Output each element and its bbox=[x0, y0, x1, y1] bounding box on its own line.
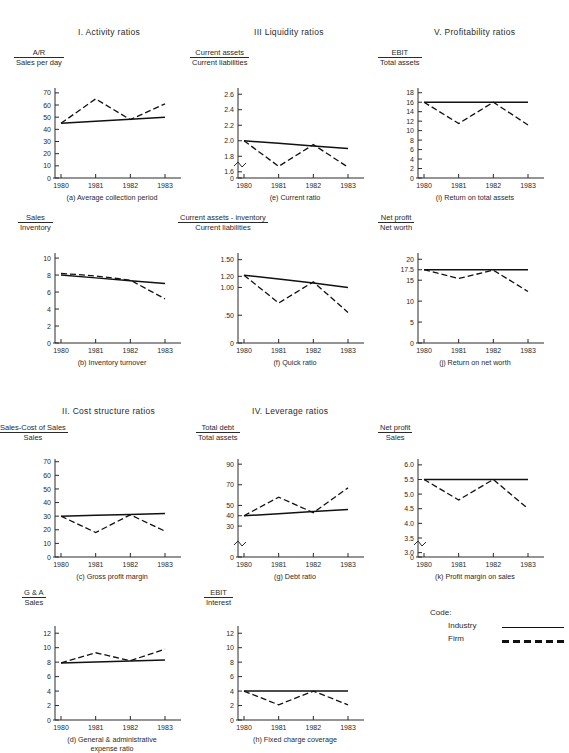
y-tick-label: 10 bbox=[226, 644, 234, 651]
y-tick-label: 2.0 bbox=[224, 137, 234, 144]
x-tick-label: 1983 bbox=[157, 182, 173, 189]
y-tick-label: 2 bbox=[47, 323, 51, 330]
y-tick-label: 8 bbox=[47, 272, 51, 279]
y-axis-numerator-d: G & A bbox=[22, 588, 46, 598]
caption-line-1: (e) Current ratio bbox=[212, 194, 378, 203]
x-tick-label: 1980 bbox=[53, 561, 69, 568]
plot-h: 0246810121980198119821983 bbox=[212, 618, 378, 750]
y-tick-label: 6 bbox=[47, 673, 51, 680]
x-tick-label: 1980 bbox=[236, 347, 252, 354]
y-tick-label: 2.6 bbox=[224, 91, 234, 98]
y-tick-label: 20 bbox=[43, 150, 51, 157]
y-axis-numerator-h: EBIT bbox=[204, 588, 233, 598]
plot-a: 0102030405060701980198119821983 bbox=[29, 80, 195, 208]
x-tick-label: 1980 bbox=[416, 347, 432, 354]
y-tick-label: 4 bbox=[230, 688, 234, 695]
x-tick-label: 1982 bbox=[123, 182, 139, 189]
y-tick-label: 30 bbox=[43, 513, 51, 520]
y-tick-label: 10 bbox=[406, 298, 414, 305]
y-tick-label: 50 bbox=[226, 502, 234, 509]
y-tick-label: 5.5 bbox=[404, 476, 414, 483]
x-tick-label: 1982 bbox=[123, 347, 139, 354]
y-tick-label: 70 bbox=[43, 458, 51, 465]
y-axis-denominator-b: Inventory bbox=[18, 223, 53, 232]
y-tick-label: 12 bbox=[43, 630, 51, 637]
y-axis-label-f: Current assets - inventoryCurrent liabil… bbox=[178, 213, 268, 232]
y-axis-denominator-i: Total assets bbox=[378, 58, 422, 67]
y-tick-label: 2 bbox=[230, 702, 234, 709]
y-tick-label: 1.50 bbox=[220, 256, 234, 263]
y-tick-label: 18 bbox=[406, 89, 414, 96]
caption-j: (j) Return on net worth bbox=[392, 359, 558, 368]
caption-line-2: expense ratio bbox=[29, 745, 195, 753]
y-tick-label: 17.5 bbox=[400, 266, 414, 273]
y-tick-label: 60 bbox=[43, 102, 51, 109]
caption-line-1: (b) Inventory turnover bbox=[29, 359, 195, 368]
y-axis-numerator-i: EBIT bbox=[378, 48, 422, 58]
y-tick-label: 40 bbox=[43, 499, 51, 506]
y-tick-label: 6 bbox=[230, 673, 234, 680]
x-tick-label: 1982 bbox=[486, 347, 502, 354]
x-tick-label: 1983 bbox=[340, 182, 356, 189]
x-tick-label: 1983 bbox=[157, 347, 173, 354]
y-tick-label: 2.4 bbox=[224, 106, 234, 113]
y-tick-label: 10 bbox=[406, 127, 414, 134]
y-tick-label: 10 bbox=[43, 540, 51, 547]
series-firm bbox=[424, 270, 528, 292]
plot-j: 05101517.5201980198119821983 bbox=[392, 245, 558, 373]
y-tick-label: 0 bbox=[230, 340, 234, 347]
y-axis-denominator-a: Sales per day bbox=[14, 58, 64, 67]
series-firm bbox=[61, 273, 165, 298]
series-firm bbox=[244, 488, 348, 516]
caption-line-1: (j) Return on net worth bbox=[392, 359, 558, 368]
y-tick-label: 10 bbox=[43, 255, 51, 262]
series-firm bbox=[61, 515, 165, 533]
y-axis-label-i: EBITTotal assets bbox=[378, 48, 422, 67]
legend-swatch-dashed-line bbox=[502, 640, 564, 643]
y-axis-label-b: SalesInventory bbox=[18, 213, 53, 232]
y-axis-label-d: G & ASales bbox=[22, 588, 46, 607]
y-axis-label-j: Net profitNet worth bbox=[378, 213, 414, 232]
y-axis-numerator-e: Current assets bbox=[190, 48, 249, 58]
y-axis-numerator-f: Current assets - inventory bbox=[178, 213, 268, 223]
x-tick-label: 1980 bbox=[53, 724, 69, 731]
y-axis-denominator-d: Sales bbox=[22, 598, 46, 607]
caption-line-1: (f) Quick ratio bbox=[212, 359, 378, 368]
legend: Code: Industry Firm bbox=[430, 608, 451, 647]
y-tick-label: .50 bbox=[224, 312, 234, 319]
x-tick-label: 1980 bbox=[53, 182, 69, 189]
y-tick-label: 2.2 bbox=[224, 122, 234, 129]
y-tick-label: 50 bbox=[43, 486, 51, 493]
x-tick-label: 1981 bbox=[271, 561, 287, 568]
x-tick-label: 1983 bbox=[520, 347, 536, 354]
x-tick-label: 1983 bbox=[340, 724, 356, 731]
y-tick-label: 3.0 bbox=[404, 549, 414, 556]
y-tick-label: 2 bbox=[47, 702, 51, 709]
x-tick-label: 1981 bbox=[88, 724, 104, 731]
y-tick-label: 40 bbox=[43, 126, 51, 133]
series-industry bbox=[61, 660, 165, 663]
axis-break-marker bbox=[234, 162, 246, 167]
y-tick-label: 30 bbox=[43, 138, 51, 145]
section-title-profitability: V. Profitability ratios bbox=[434, 27, 515, 37]
y-tick-label: 0 bbox=[47, 717, 51, 724]
y-tick-label: 1.8 bbox=[224, 153, 234, 160]
y-tick-label: 4 bbox=[47, 688, 51, 695]
series-industry bbox=[244, 141, 348, 149]
caption-line-1: (c) Gross profit margin bbox=[29, 573, 195, 582]
legend-entry-firm: Firm bbox=[430, 634, 451, 647]
y-tick-label: 30 bbox=[226, 523, 234, 530]
y-tick-label: 6 bbox=[47, 289, 51, 296]
plot-c: 0102030405060701980198119821983 bbox=[29, 451, 195, 587]
series-industry bbox=[244, 275, 348, 287]
y-tick-label: 8 bbox=[47, 659, 51, 666]
y-tick-label: 15 bbox=[406, 277, 414, 284]
caption-line-1: (i) Return on total assets bbox=[392, 194, 558, 203]
caption-e: (e) Current ratio bbox=[212, 194, 378, 203]
y-tick-label: 8 bbox=[230, 659, 234, 666]
y-axis-numerator-b: Sales bbox=[18, 213, 53, 223]
x-tick-label: 1981 bbox=[451, 182, 467, 189]
series-industry bbox=[244, 510, 348, 516]
x-tick-label: 1983 bbox=[520, 182, 536, 189]
